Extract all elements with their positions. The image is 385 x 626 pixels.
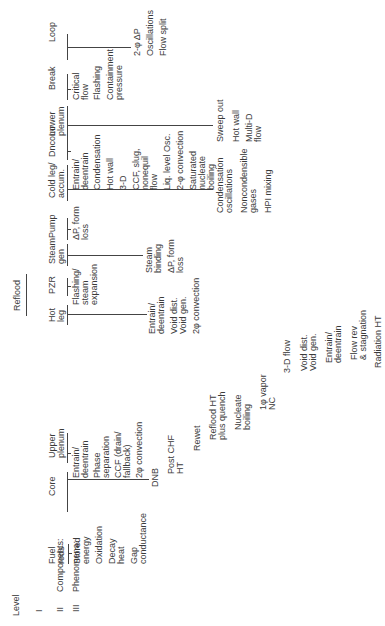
phenomenon: Stored energy <box>73 536 91 564</box>
phenomenon: 1φ vapor NC <box>259 374 277 410</box>
phenomena-hierarchy-diagram: Level I II Components: III Phenomena: Re… <box>0 0 385 626</box>
connector-line <box>67 314 147 315</box>
phenomenon: Noncondensible gases <box>240 148 258 213</box>
component-underline <box>67 74 68 100</box>
phenomenon: Critical flow <box>72 72 90 100</box>
phenomenon: ΔP, form loss <box>72 206 90 240</box>
phase-underline <box>26 274 27 316</box>
connector-line <box>67 479 149 480</box>
phenomenon: DNB <box>151 468 160 487</box>
phenomenon: Flow split <box>159 18 168 56</box>
phenomenon: Reflood HT plus quench <box>209 391 227 440</box>
component-loop: Loop <box>48 22 57 42</box>
phenomenon: Condensation oscillations <box>216 157 234 213</box>
component-underline <box>67 106 68 140</box>
component-underline <box>67 165 68 201</box>
phenomenon: HPI mixing <box>264 169 273 213</box>
phenomenon: Entrain/ deentrain <box>325 325 343 363</box>
phenomenon: Condensation <box>93 134 102 190</box>
phenomenon: Flashing <box>93 66 102 100</box>
component-underline <box>67 433 68 463</box>
component-underline <box>68 544 69 564</box>
phenomenon: ΔP, form loss <box>167 239 185 273</box>
phenomenon: Steam binding <box>145 244 163 273</box>
level-2-numeral: II <box>56 607 65 612</box>
component-steam-gen: Steam gen <box>48 238 66 264</box>
component-underline <box>67 472 68 512</box>
phenomenon: Decay heat <box>108 538 126 564</box>
phenomenon: Oxidation <box>95 526 104 564</box>
phenomenon: Entrain/ deentrain <box>72 152 90 190</box>
phenomenon: Phase separation <box>93 436 111 478</box>
level-1-numeral: I <box>35 609 44 612</box>
component-pzr: PZR <box>48 276 57 294</box>
phenomenon: Void dist. Void gen. <box>300 333 318 371</box>
component-underline <box>67 305 68 325</box>
component-break: Break <box>48 66 57 90</box>
connector-line <box>67 255 143 256</box>
component-underline <box>67 278 68 296</box>
phenomenon: Radiation HT <box>374 315 383 368</box>
component-cold-leg-accum: Cold leg/ accum. <box>48 162 66 198</box>
phenomenon: Gap conductance <box>130 513 148 564</box>
component-upper-plenum: Upper plenum <box>48 428 66 458</box>
phenomenon: Entrain/ deentrain <box>72 440 90 478</box>
phenomenon: 3-D <box>119 175 128 190</box>
phenomenon: Oscillations <box>146 10 155 56</box>
phenomenon: 2-φ ΔP <box>133 28 142 56</box>
phenomenon: Flashing/ steam expansion <box>72 264 99 305</box>
phenomenon: Containment pressure <box>106 49 124 100</box>
phenomenon: 3-D flow <box>283 340 292 373</box>
level-heading: Level <box>12 594 21 616</box>
phenomenon: Post CHF HT <box>167 435 185 474</box>
phenomenon: Entrain/ deentrain <box>148 296 166 334</box>
phenomenon: CCF (drain/ fallback) <box>114 431 132 478</box>
phenomenon: Hot wall <box>232 110 241 142</box>
phenomenon: Flow rev & stagnation <box>350 310 368 360</box>
phenomenon: Saturated nucleate boiling <box>189 151 216 190</box>
phenomenon: Hot wall <box>106 158 115 190</box>
component-hot-leg: Hot leg <box>48 308 66 322</box>
phenomenon: Nucleate boiling <box>234 394 252 430</box>
connector-tick <box>67 151 71 152</box>
connector-line <box>67 47 131 48</box>
phenomenon: 2φ convection <box>192 278 201 334</box>
component-core: Core <box>48 476 57 496</box>
phenomenon: CCF, slug, nonequil flow <box>132 148 159 190</box>
component-pump: Pump <box>48 214 57 238</box>
phenomenon: Sweep out <box>216 99 225 142</box>
phenomenon: Liq. level Osc. <box>163 133 172 190</box>
component-fuel-rods: Fuel rods <box>48 546 66 564</box>
component-lower-plenum: Lower plenum <box>48 106 66 136</box>
phenomenon: Void dist. Void gen. <box>170 296 188 334</box>
connector-line <box>67 125 213 126</box>
phenomenon: Multi-D flow <box>245 114 263 143</box>
phenomenon: 2φ convection <box>135 422 144 478</box>
level-3-numeral: III <box>72 604 81 612</box>
phenomenon: Rewet <box>193 425 202 451</box>
phenomenon: 2-φ convection <box>176 131 185 190</box>
phase-label-reflood: Reflood <box>13 280 22 311</box>
